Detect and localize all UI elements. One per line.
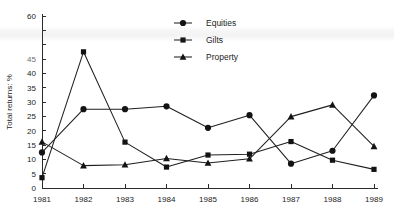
data-point bbox=[122, 140, 127, 145]
data-point bbox=[329, 148, 335, 154]
data-point bbox=[371, 167, 376, 172]
circle-marker-icon bbox=[180, 20, 186, 26]
data-point bbox=[288, 161, 294, 167]
series-layer bbox=[39, 49, 378, 180]
y-tick-label: 5 bbox=[32, 170, 37, 179]
x-tick-label: 1982 bbox=[75, 195, 93, 204]
chart-page: 05101520253035404560 1981198219831984198… bbox=[0, 0, 394, 221]
y-axis-title: Total returns: % bbox=[5, 74, 14, 130]
data-point bbox=[205, 125, 211, 131]
chart-legend: EquitiesGiltsProperty bbox=[174, 18, 239, 62]
data-point bbox=[39, 138, 46, 144]
x-tick-label: 1987 bbox=[282, 195, 300, 204]
line-chart: 05101520253035404560 1981198219831984198… bbox=[0, 0, 394, 221]
y-axis-ticks: 05101520253035404560 bbox=[27, 12, 46, 193]
y-tick-label: 45 bbox=[27, 55, 36, 64]
x-tick-label: 1985 bbox=[199, 195, 217, 204]
y-tick-label: 25 bbox=[27, 112, 36, 121]
x-tick-label: 1981 bbox=[33, 195, 51, 204]
data-point bbox=[80, 106, 86, 112]
square-marker-icon bbox=[180, 37, 185, 42]
data-point bbox=[288, 139, 293, 144]
legend-label: Property bbox=[206, 52, 239, 62]
legend-item-property[interactable]: Property bbox=[174, 52, 239, 62]
data-point bbox=[163, 103, 169, 109]
data-point bbox=[205, 152, 210, 157]
x-tick-label: 1983 bbox=[116, 195, 134, 204]
data-point bbox=[39, 175, 44, 180]
data-point bbox=[81, 49, 86, 54]
legend-label: Gilts bbox=[206, 35, 223, 45]
y-tick-label: 10 bbox=[27, 155, 36, 164]
data-point bbox=[122, 106, 128, 112]
data-point bbox=[39, 149, 45, 155]
y-tick-label: 40 bbox=[27, 69, 36, 78]
legend-label: Equities bbox=[206, 18, 236, 28]
y-tick-label: 60 bbox=[27, 12, 36, 21]
data-point bbox=[329, 101, 336, 107]
x-tick-label: 1988 bbox=[324, 195, 342, 204]
data-point bbox=[246, 112, 252, 118]
series-property bbox=[39, 101, 378, 168]
x-tick-label: 1986 bbox=[241, 195, 259, 204]
x-tick-label: 1989 bbox=[365, 195, 383, 204]
x-axis-ticks: 198119821983198419851986198719881989 bbox=[33, 184, 383, 204]
y-tick-label: 15 bbox=[27, 141, 36, 150]
data-point bbox=[163, 155, 170, 161]
y-tick-label: 35 bbox=[27, 84, 36, 93]
data-point bbox=[330, 158, 335, 163]
data-point bbox=[164, 164, 169, 169]
legend-item-gilts[interactable]: Gilts bbox=[174, 35, 223, 45]
y-tick-label: 0 bbox=[32, 184, 37, 193]
y-tick-label: 30 bbox=[27, 98, 36, 107]
data-point bbox=[371, 92, 377, 98]
x-tick-label: 1984 bbox=[158, 195, 176, 204]
y-tick-label: 20 bbox=[27, 127, 36, 136]
legend-item-equities[interactable]: Equities bbox=[174, 18, 236, 28]
